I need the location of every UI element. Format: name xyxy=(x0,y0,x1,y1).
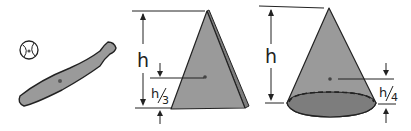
baseball-icon xyxy=(20,41,38,59)
triangle-centroid-num: h xyxy=(151,86,159,101)
cone-height-label: h xyxy=(265,45,277,67)
triangle-centroid-den: 3 xyxy=(162,94,169,107)
cone-centroid-num: h xyxy=(379,85,387,100)
center-of-mass-diagram: h h 3 h h 4 xyxy=(0,0,411,131)
triangle-height-label: h xyxy=(137,49,149,71)
cone-centroid-den: 4 xyxy=(391,91,398,104)
triangle-figure xyxy=(132,10,249,124)
cone-figure xyxy=(259,6,396,123)
